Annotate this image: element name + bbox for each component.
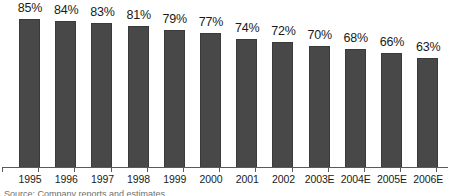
bar bbox=[417, 58, 438, 168]
x-axis-line bbox=[2, 167, 448, 168]
axis-tick bbox=[328, 168, 329, 172]
bar bbox=[19, 19, 40, 168]
bar-value-label: 68% bbox=[336, 31, 376, 45]
bar-value-label: 81% bbox=[119, 8, 159, 22]
bar bbox=[236, 39, 257, 169]
bar bbox=[309, 46, 330, 168]
bar-value-label: 84% bbox=[46, 3, 86, 17]
bar-group: 79% bbox=[157, 0, 193, 168]
bar bbox=[55, 21, 76, 168]
bar-value-label: 83% bbox=[82, 5, 122, 19]
bar-value-label: 66% bbox=[372, 35, 412, 49]
bar bbox=[272, 42, 293, 168]
axis-tick bbox=[219, 168, 220, 172]
bar bbox=[164, 30, 185, 168]
bar-chart: 85%84%83%81%79%77%74%72%70%68%66%63% 199… bbox=[0, 0, 450, 196]
axis-tick bbox=[436, 168, 437, 172]
bar-group: 85% bbox=[12, 0, 48, 168]
axis-tick bbox=[74, 168, 75, 172]
bar-group: 72% bbox=[265, 0, 301, 168]
bar bbox=[128, 26, 149, 168]
bar-value-label: 63% bbox=[408, 40, 448, 54]
bar-value-label: 85% bbox=[10, 1, 50, 15]
bar-group: 68% bbox=[338, 0, 374, 168]
axis-tick bbox=[147, 168, 148, 172]
axis-tick bbox=[38, 168, 39, 172]
bar-group: 70% bbox=[302, 0, 338, 168]
bar-group: 66% bbox=[374, 0, 410, 168]
bar-group: 81% bbox=[121, 0, 157, 168]
axis-tick bbox=[2, 168, 3, 172]
bar bbox=[200, 33, 221, 168]
x-axis-category-labels: 199519961997199819992000200120022003E200… bbox=[0, 173, 450, 187]
axis-tick bbox=[183, 168, 184, 172]
axis-tick bbox=[255, 168, 256, 172]
axis-tick bbox=[400, 168, 401, 172]
bar-value-label: 70% bbox=[300, 28, 340, 42]
bar-group: 84% bbox=[48, 0, 84, 168]
bar-value-label: 79% bbox=[155, 12, 195, 26]
source-caption: Source: Company reports and estimates bbox=[4, 189, 444, 196]
bar bbox=[91, 23, 112, 168]
bar-group: 83% bbox=[84, 0, 120, 168]
plot-area: 85%84%83%81%79%77%74%72%70%68%66%63% bbox=[0, 0, 450, 168]
category-label: 2006E bbox=[406, 173, 450, 185]
bar-value-label: 74% bbox=[227, 21, 267, 35]
axis-tick bbox=[364, 168, 365, 172]
bar-group: 77% bbox=[193, 0, 229, 168]
bar bbox=[345, 49, 366, 168]
bar bbox=[381, 53, 402, 168]
bar-value-label: 77% bbox=[191, 15, 231, 29]
axis-tick bbox=[111, 168, 112, 172]
bar-value-label: 72% bbox=[263, 24, 303, 38]
axis-tick bbox=[292, 168, 293, 172]
bar-group: 74% bbox=[229, 0, 265, 168]
bar-group: 63% bbox=[410, 0, 446, 168]
